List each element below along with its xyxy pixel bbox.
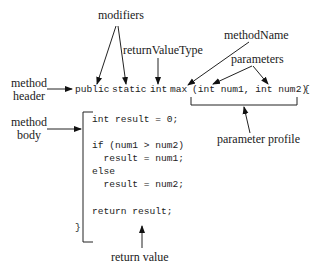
label-method-header: method header	[10, 77, 48, 103]
label-method-body-line2: body	[10, 129, 48, 142]
code-return-type: int	[150, 84, 167, 96]
code-parameter-list: (int num1, int num2)	[192, 84, 307, 96]
parameter-profile-bracket	[191, 97, 297, 105]
label-method-header-line2: header	[10, 90, 48, 103]
code-keyword-public: public	[75, 84, 110, 96]
label-return-value-type: returnValueType	[123, 44, 203, 57]
label-parameter-profile: parameter profile	[217, 133, 300, 146]
label-method-body: method body	[10, 116, 48, 142]
code-body-line-4: result = num1;	[92, 153, 184, 165]
code-body-line-6: result = num2;	[92, 179, 184, 191]
parameter-profile-arrow	[244, 107, 250, 133]
label-method-name: methodName	[224, 29, 289, 42]
code-body-line-3: if (num1 > num2)	[92, 140, 184, 152]
code-keyword-static: static	[112, 84, 147, 96]
modifiers-arrow-public	[97, 26, 116, 84]
code-body-line-1: int result = 0;	[92, 114, 178, 126]
label-modifiers: modifiers	[98, 9, 144, 22]
label-parameters: parameters	[231, 53, 284, 66]
code-close-brace: }	[75, 222, 81, 234]
label-return-value: return value	[111, 251, 169, 264]
code-method-name: max	[170, 84, 187, 96]
parameters-arrow-num1	[213, 66, 252, 84]
parameters-arrow-num2	[253, 66, 268, 84]
code-body-line-5: else	[92, 166, 115, 178]
code-open-brace: {	[304, 84, 310, 96]
code-body-line-8: return result;	[92, 206, 173, 218]
